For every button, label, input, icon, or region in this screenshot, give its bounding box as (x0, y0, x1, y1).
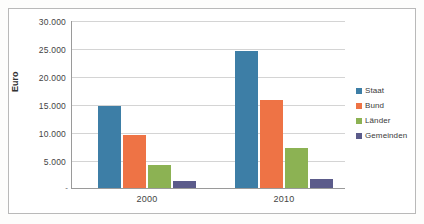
legend-swatch-staat-icon (356, 88, 362, 94)
legend-label-staat: Staat (365, 86, 384, 95)
plot-area (71, 21, 345, 189)
chart-legend: Staat Bund Länder Gemeinden (356, 83, 418, 143)
y-tick-label-0: - (63, 183, 68, 192)
legend-label-bund: Bund (365, 101, 384, 110)
bar-group-2010 (235, 21, 335, 188)
legend-item-gemeinden[interactable]: Gemeinden (356, 128, 418, 143)
legend-item-laender[interactable]: Länder (356, 113, 418, 128)
legend-item-bund[interactable]: Bund (356, 98, 418, 113)
legend-swatch-laender-icon (356, 118, 362, 124)
chart-figure: Euro 30.000 25.000 20.000 15.000 10.000 … (0, 0, 424, 224)
x-tick-label-2000: 2000 (97, 194, 197, 204)
legend-label-gemeinden: Gemeinden (365, 131, 407, 140)
y-tick-label-10000: 10.000 (10, 129, 66, 139)
legend-item-staat[interactable]: Staat (356, 83, 418, 98)
legend-swatch-bund-icon (356, 103, 362, 109)
x-tick-label-2010: 2010 (234, 194, 334, 204)
bar-gemeinden-2010[interactable] (310, 179, 333, 188)
bar-staat-2010[interactable] (235, 51, 258, 188)
y-tick-label-15000: 15.000 (10, 101, 66, 111)
bar-bund-2010[interactable] (260, 100, 283, 188)
bar-group-2000 (98, 21, 198, 188)
bar-laender-2010[interactable] (285, 148, 308, 188)
chart-plot-wrapper: Euro 30.000 25.000 20.000 15.000 10.000 … (0, 0, 424, 224)
y-tick-label-5000: 5.000 (10, 157, 66, 167)
bar-laender-2000[interactable] (148, 165, 171, 188)
y-tick-label-30000: 30.000 (10, 17, 66, 27)
bar-gemeinden-2000[interactable] (173, 181, 196, 189)
legend-swatch-gemeinden-icon (356, 133, 362, 139)
y-tick-label-20000: 20.000 (10, 73, 66, 83)
legend-label-laender: Länder (365, 116, 391, 125)
y-tick-label-25000: 25.000 (10, 45, 66, 55)
bar-bund-2000[interactable] (123, 135, 146, 188)
bar-staat-2000[interactable] (98, 106, 121, 188)
